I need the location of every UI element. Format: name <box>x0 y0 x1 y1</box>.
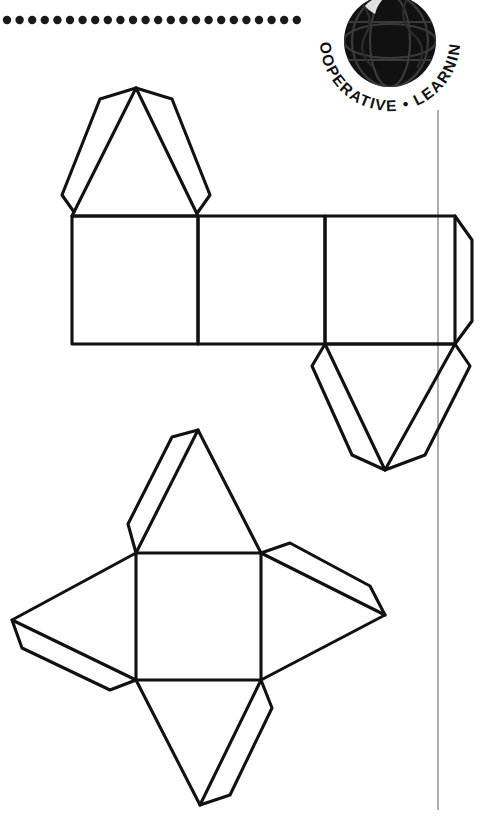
top-triangle-left-tab <box>62 88 136 212</box>
base-square-face <box>136 553 261 680</box>
middle-square-face <box>198 216 325 344</box>
dotted-rule <box>3 16 301 24</box>
bottom-triangle-right-tab <box>385 344 470 470</box>
right-square-face <box>325 216 455 344</box>
top-triangle-face <box>72 88 198 216</box>
pyramid-left-triangle-face <box>12 553 136 680</box>
pyramid-bottom-triangle-face <box>136 680 261 805</box>
bottom-triangle-left-tab <box>312 344 385 470</box>
nets-artboard <box>0 0 490 826</box>
top-triangle-right-tab <box>136 88 210 212</box>
triangular-prism-net <box>62 88 472 470</box>
bottom-triangle-face <box>325 344 455 470</box>
pyramid-top-triangle-face <box>136 430 261 553</box>
pyramid-right-triangle-face <box>261 553 385 680</box>
worksheet-page: COOPERATIVE • LEARNING <box>0 0 490 826</box>
left-square-face <box>72 216 198 344</box>
right-edge-glue-tab <box>455 216 472 344</box>
square-pyramid-net <box>12 430 385 805</box>
